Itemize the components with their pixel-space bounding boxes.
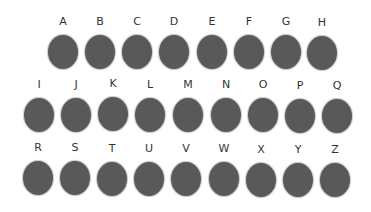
letter-circle-d: D [156,16,192,76]
letter-label: J [58,79,94,91]
letter-circle-s: S [57,142,93,202]
letter-circle-x: X [243,144,279,204]
letter-circle-v: V [168,143,204,203]
circle-shape [234,35,264,69]
letter-circle-o: O [245,79,281,139]
letter-circle-j: J [58,79,94,139]
letter-label: B [82,16,118,28]
letter-label: P [282,80,318,92]
circle-shape [211,98,241,132]
letter-label: N [208,79,244,91]
circle-shape [122,35,152,69]
circle-shape [209,162,239,196]
letter-circle-e: E [194,16,230,76]
letter-circle-t: T [94,143,130,203]
letter-label: H [304,17,340,29]
circle-shape [246,163,276,197]
circle-shape [24,98,54,132]
letter-circle-f: F [231,16,267,76]
letter-circle-g: G [268,16,304,76]
circle-shape [134,162,164,196]
letter-circle-y: Y [280,144,316,204]
letter-label: G [268,16,304,28]
circle-shape [135,98,165,132]
letter-circle-a: A [45,16,81,76]
circle-shape [271,35,301,69]
letter-label: K [95,78,131,90]
circle-shape [320,163,350,197]
letter-label: X [243,144,279,156]
circle-shape [285,99,315,133]
letter-circle-u: U [131,143,167,203]
letter-label: C [119,16,155,28]
circle-shape [61,98,91,132]
letter-circle-i: I [21,79,57,139]
circle-shape [97,162,127,196]
circle-shape [283,163,313,197]
circle-shape [197,35,227,69]
circle-shape [171,162,201,196]
circle-shape [173,98,203,132]
letter-circle-h: H [304,17,340,77]
circle-shape [60,161,90,195]
letter-circle-q: Q [319,80,355,140]
circle-shape [85,35,115,69]
letter-label: A [45,16,81,28]
letter-label: R [20,142,56,154]
letter-label: O [245,79,281,91]
letter-label: W [206,143,242,155]
circle-shape [23,161,53,195]
letter-label: T [94,143,130,155]
letter-circle-z: Z [317,144,353,204]
letter-circle-k: K [95,78,131,138]
letter-circle-m: M [170,79,206,139]
letter-label: D [156,16,192,28]
letter-label: Q [319,80,355,92]
letter-label: V [168,143,204,155]
circle-shape [159,35,189,69]
letter-circle-n: N [208,79,244,139]
letter-circle-w: W [206,143,242,203]
letter-circle-b: B [82,16,118,76]
circle-shape [248,98,278,132]
letter-label: U [131,143,167,155]
letter-circle-l: L [132,79,168,139]
letter-label: Z [317,144,353,156]
circle-shape [48,35,78,69]
letter-label: F [231,16,267,28]
circle-shape [322,99,352,133]
letter-label: I [21,79,57,91]
letter-label: S [57,142,93,154]
letter-label: M [170,79,206,91]
letter-circle-c: C [119,16,155,76]
circle-shape [307,36,337,70]
letter-label: Y [280,144,316,156]
letter-label: E [194,16,230,28]
circle-shape [98,97,128,131]
letter-circle-p: P [282,80,318,140]
letter-circle-r: R [20,142,56,202]
letter-label: L [132,79,168,91]
